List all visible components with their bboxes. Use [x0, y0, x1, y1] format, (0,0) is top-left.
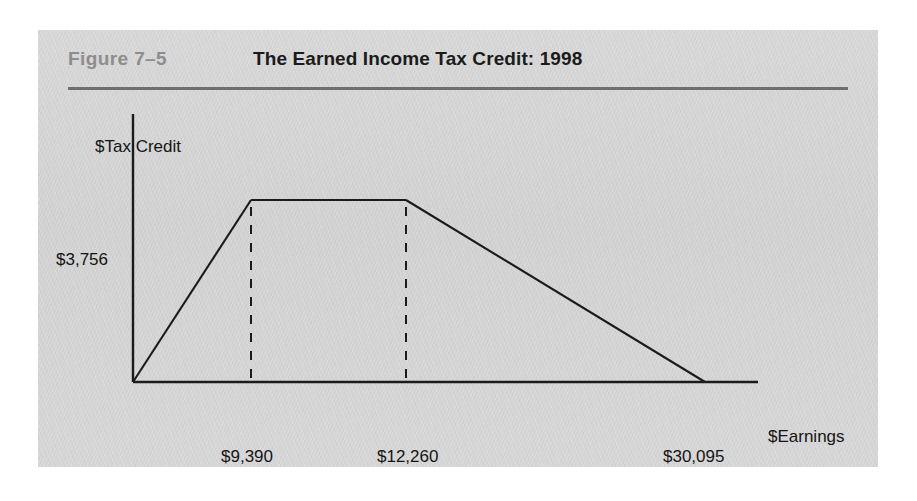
- x-axis-label: $Earnings: [768, 427, 845, 447]
- x-axis-tick-label-12260: $12,260: [377, 447, 438, 467]
- figure-header: Figure 7–5 The Earned Income Tax Credit:…: [38, 30, 878, 92]
- phase-in-segment: [133, 200, 251, 382]
- phase-out-segment: [406, 200, 705, 382]
- x-axis-tick-label-9390: $9,390: [221, 447, 273, 467]
- y-axis-label: $Tax Credit: [95, 137, 181, 157]
- figure-root: Figure 7–5 The Earned Income Tax Credit:…: [0, 0, 917, 501]
- header-divider-rule: [68, 87, 848, 90]
- x-axis-tick-label-30095: $30,095: [663, 447, 724, 467]
- y-axis-tick-label-3756: $3,756: [56, 250, 108, 270]
- figure-title: The Earned Income Tax Credit: 1998: [253, 48, 582, 70]
- figure-panel: Figure 7–5 The Earned Income Tax Credit:…: [38, 30, 878, 467]
- chart-plot-area: $Tax Credit $3,756 $Earnings $9,390 $12,…: [38, 92, 878, 467]
- figure-number-label: Figure 7–5: [68, 48, 167, 70]
